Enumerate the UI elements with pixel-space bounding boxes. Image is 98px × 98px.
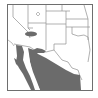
range-map: Species range map (0, 0, 98, 98)
range-patch-arizona (25, 32, 37, 37)
map-canvas (0, 0, 98, 98)
